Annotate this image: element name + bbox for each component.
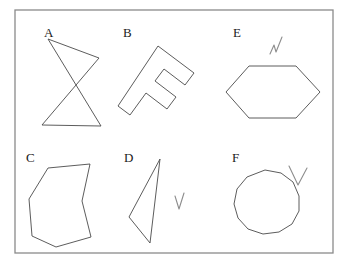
panel-label-a: A — [44, 26, 53, 39]
shape-f-dodecagon[interactable] — [234, 170, 299, 234]
panel-label-e: E — [233, 26, 241, 39]
check-mark-d-icon — [175, 193, 184, 209]
shape-b-rotated-letter-f-polygon[interactable] — [118, 46, 194, 115]
panel-label-c: C — [26, 151, 35, 164]
panel-label-d: D — [124, 151, 133, 164]
shape-grid-figure: ABECDF — [0, 0, 348, 263]
shape-e-hexagon[interactable] — [226, 66, 320, 118]
check-marks-group — [175, 37, 307, 209]
shape-c-concave-heptagon[interactable] — [29, 164, 91, 247]
shape-d-thin-triangle[interactable] — [129, 159, 160, 243]
shapes-group — [29, 39, 320, 247]
panel-label-f: F — [232, 151, 239, 164]
panel-label-b: B — [123, 26, 132, 39]
check-mark-e-icon — [270, 37, 282, 54]
outer-border — [15, 10, 333, 253]
shape-a-self-intersecting-bowtie-quadrilateral[interactable] — [42, 39, 101, 126]
check-mark-f-icon — [289, 166, 307, 185]
